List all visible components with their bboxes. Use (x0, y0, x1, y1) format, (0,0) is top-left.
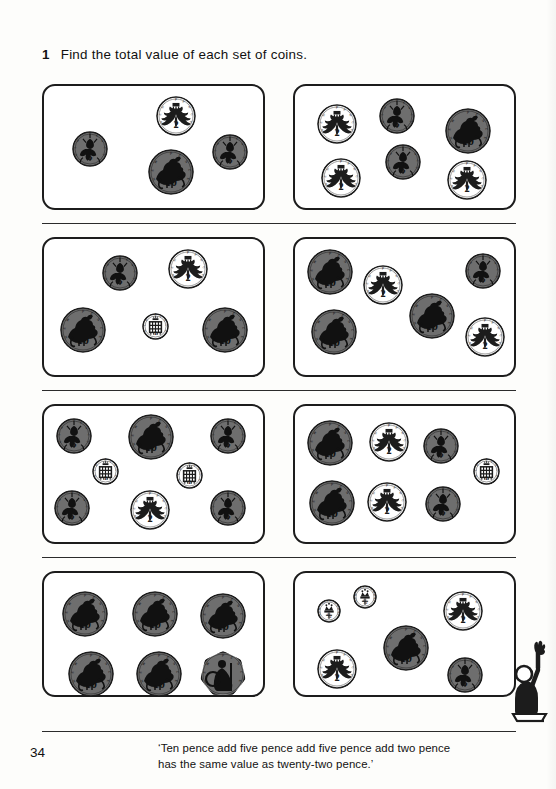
svg-text:P: P (466, 162, 468, 166)
svg-text:5: 5 (72, 439, 77, 449)
svg-text:P: P (340, 160, 342, 164)
svg-text:10: 10 (400, 651, 412, 665)
svg-text:C: C (202, 266, 206, 268)
coin-set-box-8[interactable]: NEWHALFPENNY½NEWHALFPENNY½NEWPENCE2NEWPE… (293, 571, 516, 697)
coin-2p: NEWPENCE2 (465, 317, 505, 357)
row-spacer (42, 697, 516, 710)
coin-2p: NEWPENCE2 (321, 158, 361, 198)
svg-text:10: 10 (328, 335, 340, 349)
svg-text:10: 10 (149, 617, 161, 631)
coin-5p: NEWPENCE5 (447, 657, 483, 693)
coin-10p: NEWPENCE10 (148, 149, 194, 195)
svg-text:2: 2 (482, 340, 487, 351)
coin-2p: NEWPENCE2 (156, 96, 196, 136)
footer-quote-line-2: has the same value as twenty-two pence.’ (158, 756, 488, 772)
coin-10p: NEWPENCE10 (62, 591, 108, 637)
coin-set-box-6[interactable]: NEWPENCE10NEWPENCE2NEWPENCE5NEWPENCE1NEW… (293, 404, 516, 544)
coin-2p: NEWPENCE2 (363, 265, 403, 305)
coin-2p: NEWPENCE2 (130, 490, 170, 530)
coin-5p: NEWPENCE5 (210, 490, 246, 526)
row-spacer (42, 210, 516, 223)
svg-text:2: 2 (334, 672, 339, 683)
row-spacer (42, 377, 516, 390)
svg-text:1: 1 (485, 474, 489, 482)
svg-text:C: C (481, 177, 485, 179)
svg-text:2: 2 (338, 181, 343, 192)
coin-sets-row: NEWPENCE10NEWPENCE10NEWPENCE10NEWPENCE10… (42, 571, 516, 697)
coin-2p: NEWPENCE2 (317, 649, 357, 689)
question-number: 1 (42, 47, 50, 62)
row-spacer (42, 224, 516, 237)
coin-sets-row: NEWPENCE5NEWPENCE10NEWPENCE5NEWPENCE1NEW… (42, 404, 516, 544)
svg-text:C: C (403, 439, 407, 441)
coin-5p: NEWPENCE5 (379, 98, 415, 134)
coin-10p: NEWPENCE10 (202, 307, 248, 353)
coin-5p: NEWPENCE5 (465, 253, 501, 289)
coin-sets-row: NEWPENCE5NEWPENCE2NEWPENCE10NEWPENCE1NEW… (42, 237, 516, 377)
svg-text:5: 5 (70, 511, 75, 521)
coin-set-box-2[interactable]: NEWPENCE2NEWPENCE5NEWPENCE10NEWPENCE5NEW… (293, 84, 516, 210)
coin-set-box-4[interactable]: NEWPENCE10NEWPENCE2NEWPENCE5NEWPENCE10NE… (293, 237, 516, 377)
svg-text:C: C (499, 334, 503, 336)
svg-text:10: 10 (324, 275, 336, 289)
coin-2p: NEWPENCE2 (168, 249, 208, 289)
coin-1p: NEWPENCE1 (142, 313, 169, 340)
svg-text:P: P (484, 319, 486, 323)
svg-text:1: 1 (104, 474, 108, 482)
coin-10p: NEWPENCE10 (309, 480, 355, 526)
svg-text:10: 10 (324, 446, 336, 460)
svg-text:1: 1 (154, 329, 158, 337)
svg-text:5: 5 (401, 165, 406, 175)
row-spacer (42, 544, 516, 557)
svg-text:10: 10 (165, 175, 177, 189)
coin-halfp: NEWHALFPENNY½ (353, 585, 377, 609)
coin-10p: NEWPENCE10 (60, 307, 106, 353)
svg-text:5: 5 (481, 274, 486, 284)
coin-50p: NEWPENCE50 (200, 651, 246, 697)
coin-set-box-3[interactable]: NEWPENCE5NEWPENCE2NEWPENCE10NEWPENCE1NEW… (42, 237, 265, 377)
svg-text:C: C (477, 608, 481, 610)
svg-text:5: 5 (439, 449, 444, 459)
svg-text:2: 2 (384, 505, 389, 516)
svg-text:5: 5 (441, 507, 446, 517)
worksheet-page: 1 Find the total value of each set of co… (0, 0, 556, 789)
coin-10p: NEWPENCE10 (409, 293, 455, 339)
coin-1p: NEWPENCE1 (176, 462, 203, 489)
coin-5p: NEWPENCE5 (56, 418, 92, 454)
coin-5p: NEWPENCE5 (102, 255, 138, 291)
coin-5p: NEWPENCE5 (423, 428, 459, 464)
footer-divider (42, 731, 516, 732)
svg-text:½: ½ (327, 612, 332, 619)
row-spacer (42, 558, 516, 571)
svg-text:5: 5 (226, 511, 231, 521)
svg-text:C: C (190, 113, 194, 115)
coin-10p: NEWPENCE10 (307, 249, 353, 295)
svg-text:P: P (386, 484, 388, 488)
svg-text:10: 10 (85, 677, 97, 691)
coin-sets-row: NEWPENCE5NEWPENCE2NEWPENCE10NEWPENCE5NEW… (42, 84, 516, 210)
coin-set-box-5[interactable]: NEWPENCE5NEWPENCE10NEWPENCE5NEWPENCE1NEW… (42, 404, 265, 544)
coin-2p: NEWPENCE2 (367, 482, 407, 522)
svg-text:2: 2 (380, 288, 385, 299)
svg-text:P: P (149, 492, 151, 496)
svg-text:1: 1 (188, 478, 192, 486)
svg-text:P: P (388, 424, 390, 428)
row-spacer (42, 391, 516, 404)
svg-text:P: P (187, 251, 189, 255)
coin-set-box-7[interactable]: NEWPENCE10NEWPENCE10NEWPENCE10NEWPENCE10… (42, 571, 265, 697)
svg-text:50: 50 (217, 677, 229, 691)
coin-10p: NEWPENCE10 (307, 420, 353, 466)
svg-text:10: 10 (145, 440, 157, 454)
svg-text:10: 10 (219, 333, 231, 347)
svg-text:10: 10 (426, 319, 438, 333)
svg-text:10: 10 (153, 677, 165, 691)
coin-1p: NEWPENCE1 (92, 458, 119, 485)
coin-1p: NEWPENCE1 (473, 458, 500, 485)
coin-set-box-1[interactable]: NEWPENCE5NEWPENCE2NEWPENCE10NEWPENCE5 (42, 84, 265, 210)
svg-text:2: 2 (173, 119, 178, 130)
svg-text:P: P (382, 267, 384, 271)
svg-text:C: C (351, 121, 355, 123)
footer-quote: ‘Ten pence add five pence add five pence… (158, 740, 488, 772)
question-text: Find the total value of each set of coin… (61, 47, 307, 62)
svg-text:10: 10 (326, 506, 338, 520)
